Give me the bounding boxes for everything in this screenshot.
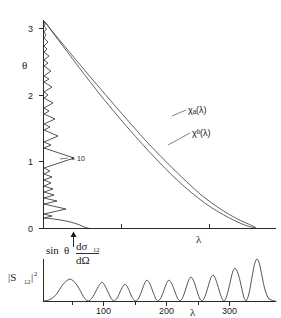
lambda-tick-label-100: 100 [96,306,111,316]
upper-panel: 0 1 2 3 θ λ χₐ(λ) χᵇ(λ) × 10 [22,20,276,266]
lambda-axis-label-upper: λ [196,233,202,245]
figure-container: 0 1 2 3 θ λ χₐ(λ) χᵇ(λ) × 10 [0,0,281,318]
cross-section-label: sin θ dσ 12 dΩ [46,240,100,266]
leader-line-chi-a [172,110,186,116]
scientific-figure: 0 1 2 3 θ λ χₐ(λ) χᵇ(λ) × 10 [0,0,281,318]
theta-tick-label-1: 1 [28,157,33,167]
lambda-tick-label-300: 300 [222,306,237,316]
lambda-axis-label-lower: λ [190,306,196,318]
curve-chi-a [45,22,256,228]
s12-label-exponent: 2 [34,270,37,277]
curve-chi-b [45,22,256,228]
leader-line-scale [60,158,68,159]
leader-line-chi-b [168,133,190,145]
cross-section-numerator: dσ [76,240,88,252]
cross-section-oscillation-curve [44,22,90,229]
cross-section-sin: sin [46,244,59,256]
theta-tick-label-3: 3 [28,24,33,34]
curve-label-chi-b: χᵇ(λ) [192,128,211,138]
curve-label-chi-a: χₐ(λ) [188,105,207,115]
cross-section-denominator: dΩ [76,254,90,266]
cross-section-theta: θ [64,244,69,256]
scale-annotation: × 10 [71,155,85,162]
cross-section-numerator-sub: 12 [93,246,100,253]
s12-label-sub: 12 [24,278,31,285]
theta-tick-label-2: 2 [28,91,33,101]
lambda-tick-label-200: 200 [159,306,174,316]
s12-label-close: | [31,271,33,283]
theta-axis-label: θ [22,59,27,71]
s12-label-open: |S [8,271,16,283]
lower-panel: 100 200 300 λ |S 12 | 2 [8,259,276,318]
theta-tick-label-0: 0 [28,224,33,234]
s12-axis-label: |S 12 | 2 [8,270,37,285]
